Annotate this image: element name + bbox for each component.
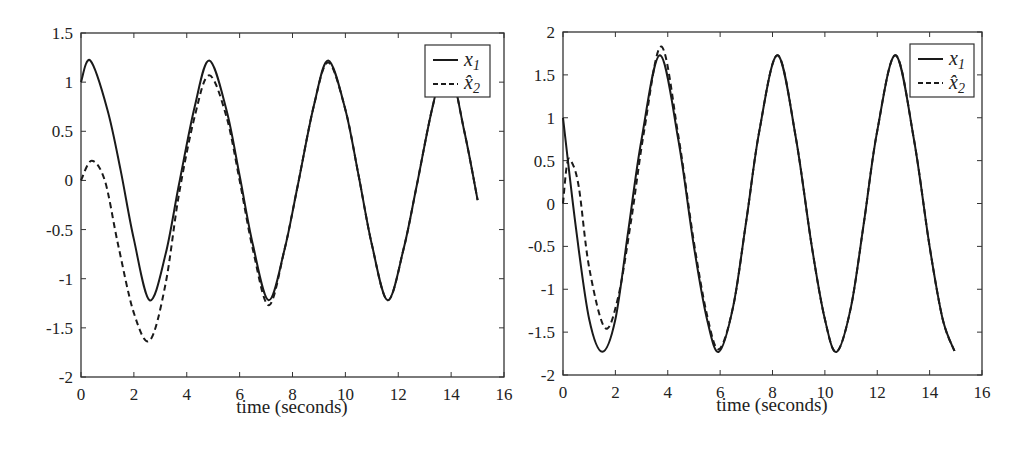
right-plot: 024681012141621.510.50-0.5-1-1.5-2 time … — [528, 23, 990, 416]
y-tick-label: -1.5 — [46, 319, 73, 338]
y-tick-label: -2 — [59, 368, 73, 387]
right-data-lines — [563, 47, 955, 352]
y-tick-label: -0.5 — [46, 221, 73, 240]
y-tick-label: 0.5 — [534, 152, 555, 171]
y-tick-label: -0.5 — [528, 237, 555, 256]
x-tick-label: 16 — [496, 385, 513, 404]
y-tick-label: -1 — [59, 270, 73, 289]
x-tick-label: 0 — [77, 385, 86, 404]
x-tick-label: 2 — [611, 383, 620, 402]
y-tick-label: -2 — [541, 366, 555, 385]
y-tick-label: 0.5 — [52, 122, 73, 141]
x-tick-label: 4 — [664, 383, 673, 402]
left-legend: x1 x̂2 — [425, 45, 490, 97]
x-tick-label: 16 — [974, 383, 991, 402]
left-x-axis-label: time (seconds) — [236, 396, 347, 418]
y-tick-label: 1.5 — [52, 24, 73, 43]
x-tick-label: 14 — [921, 383, 939, 402]
y-tick-label: 0 — [547, 195, 556, 214]
right-x-axis-label: time (seconds) — [716, 394, 827, 416]
x-tick-label: 14 — [443, 385, 461, 404]
x-tick-label: 2 — [130, 385, 139, 404]
right-legend: x1 x̂2 — [910, 44, 974, 97]
y-tick-label: 2 — [547, 23, 556, 42]
x-tick-label: 12 — [869, 383, 886, 402]
series-x1-solid-line — [563, 55, 955, 352]
y-tick-label: 1 — [65, 73, 74, 92]
left-data-lines — [81, 60, 478, 342]
y-tick-label: 0 — [65, 171, 74, 190]
y-tick-label: 1 — [547, 109, 556, 128]
series-x2-hat-dashed-line — [563, 47, 955, 352]
y-tick-label: -1.5 — [528, 323, 555, 342]
series-x2-hat-dashed-line — [81, 60, 478, 341]
y-tick-label: 1.5 — [534, 66, 555, 85]
figure: 02468101214161.510.50-0.5-1-1.5-2 time (… — [0, 0, 1030, 458]
left-plot: 02468101214161.510.50-0.5-1-1.5-2 time (… — [46, 24, 512, 418]
y-tick-label: -1 — [541, 280, 555, 299]
x-tick-label: 0 — [559, 383, 568, 402]
x-tick-label: 12 — [390, 385, 407, 404]
x-tick-label: 4 — [183, 385, 192, 404]
